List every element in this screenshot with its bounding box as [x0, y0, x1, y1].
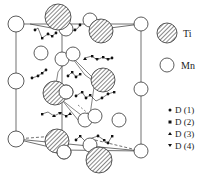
- d-site: [102, 56, 104, 58]
- d-site: [101, 97, 104, 100]
- ti-atom: [45, 4, 71, 30]
- square-marker-icon: [169, 121, 172, 124]
- d-site: [111, 135, 113, 137]
- crystal-structure-diagram: Ti Mn D (1) D (2) D (3) D (4): [0, 0, 202, 184]
- d-site: [41, 113, 43, 115]
- d-site: [75, 95, 78, 98]
- d-site: [41, 37, 43, 39]
- d-site: [89, 94, 91, 96]
- d-site: [65, 115, 67, 117]
- d-site: [75, 139, 78, 142]
- d-site: [113, 91, 115, 93]
- mn-atom: [8, 131, 24, 147]
- d-site: [81, 91, 83, 93]
- legend-item-d4: D (4): [168, 141, 194, 151]
- d-site: [68, 112, 72, 115]
- d-site: [79, 135, 81, 137]
- legend-label-mn: Mn: [181, 60, 195, 71]
- unit-cell-edges: [16, 24, 141, 151]
- legend-item-d1: D (1): [169, 105, 195, 115]
- d-site: [71, 71, 73, 73]
- legend-label-d4: D (4): [175, 141, 194, 151]
- mn-atom: [8, 73, 24, 89]
- ti-atom: [89, 19, 113, 43]
- mn-atom: [57, 145, 71, 159]
- d-site: [67, 75, 70, 78]
- d-site: [45, 69, 48, 72]
- d-site: [41, 72, 43, 74]
- legend-label-d1: D (1): [175, 105, 194, 115]
- ti-legend-icon: [157, 23, 177, 43]
- mn-atom: [66, 47, 80, 61]
- d-site: [34, 29, 37, 32]
- mn-atom: [88, 109, 102, 123]
- legend-item-ti: Ti: [157, 23, 192, 43]
- triangle-down-marker-icon: [168, 144, 172, 147]
- legend-label-ti: Ti: [183, 28, 192, 39]
- d-site: [55, 32, 58, 35]
- legend-item-d3: D (3): [168, 129, 194, 139]
- d-site: [97, 135, 100, 138]
- legend-item-mn: Mn: [160, 58, 195, 72]
- d-site: [74, 29, 77, 32]
- d-site: [51, 35, 53, 37]
- circle-marker-icon: [169, 109, 172, 112]
- d-site: [85, 97, 88, 100]
- d-site: [37, 75, 40, 78]
- d-site: [111, 57, 114, 60]
- d-site: [47, 33, 50, 36]
- mn-atom: [8, 16, 24, 32]
- d-site: [31, 77, 34, 80]
- triangle-up-marker-icon: [168, 132, 172, 135]
- legend: Ti Mn D (1) D (2) D (3) D (4): [157, 23, 195, 151]
- ti-atom: [91, 68, 115, 92]
- legend-label-d3: D (3): [175, 129, 194, 139]
- d-site: [79, 24, 82, 27]
- ti-atom: [86, 147, 112, 173]
- mn-atom: [134, 82, 148, 96]
- mn-atom: [34, 46, 48, 60]
- d-site: [75, 76, 78, 79]
- d-site: [107, 142, 110, 145]
- d-site: [107, 93, 110, 96]
- mn-atom: [134, 144, 148, 158]
- mn-atoms: [8, 13, 148, 159]
- mn-legend-icon: [160, 58, 174, 72]
- legend-item-d2: D (2): [169, 117, 195, 127]
- d-site: [79, 73, 81, 75]
- mn-atom: [112, 113, 126, 127]
- legend-label-d2: D (2): [175, 117, 194, 127]
- d-site: [91, 55, 93, 57]
- d-site: [103, 139, 105, 141]
- mn-atom: [134, 17, 148, 31]
- mn-atom: [59, 85, 73, 99]
